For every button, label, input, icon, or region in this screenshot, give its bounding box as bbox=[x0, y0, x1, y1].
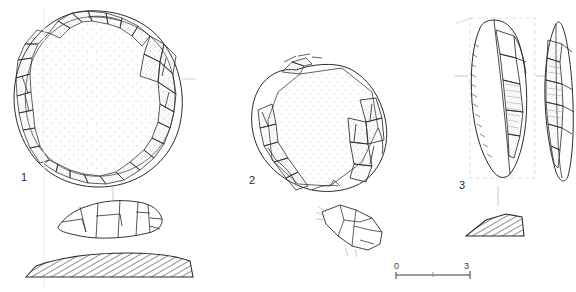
figure-1-profile-view bbox=[58, 186, 162, 238]
figure-1-section-shape bbox=[26, 253, 193, 277]
figure-2-platform-scars bbox=[282, 54, 322, 74]
scale-bar-end-label: 3 bbox=[464, 262, 469, 271]
figure-3-label: 3 bbox=[459, 180, 465, 191]
figure-1-plan-view bbox=[14, 6, 196, 288]
figure-3-section bbox=[466, 186, 524, 236]
illustration-plate: 1 2 3 0 3 bbox=[0, 0, 576, 292]
scale-bar-start-label: 0 bbox=[394, 262, 399, 271]
scale-bar bbox=[396, 271, 470, 279]
figure-2-plan-view bbox=[252, 54, 387, 191]
figure-3-obverse-view bbox=[455, 18, 549, 178]
figure-2-profile-view bbox=[316, 205, 382, 257]
figure-1-profile-outline bbox=[58, 201, 162, 239]
figure-3-section-shape bbox=[466, 214, 524, 236]
figure-1-label: 1 bbox=[21, 172, 27, 183]
figure-2-label: 2 bbox=[249, 175, 255, 186]
figure-1-section bbox=[26, 253, 193, 277]
figure-3-reverse-view bbox=[545, 22, 574, 181]
plate-canvas bbox=[0, 0, 576, 292]
